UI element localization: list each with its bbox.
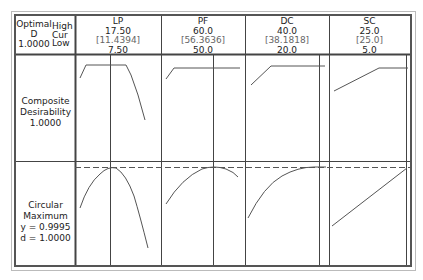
composite-curve-pf [166, 68, 240, 79]
composite-curve-dc [251, 66, 325, 85]
plot-lines [16, 16, 410, 265]
circular-curve-pf [166, 167, 238, 204]
optimizer-plot-frame: Optimal D 1.0000 High Cur Low LP 17.50 [… [14, 14, 412, 267]
composite-curve-lp [80, 65, 145, 120]
composite-curve-sc [334, 68, 408, 91]
circular-curve-sc [332, 168, 407, 226]
circular-curve-dc [248, 167, 326, 218]
circular-curve-lp [80, 168, 148, 248]
